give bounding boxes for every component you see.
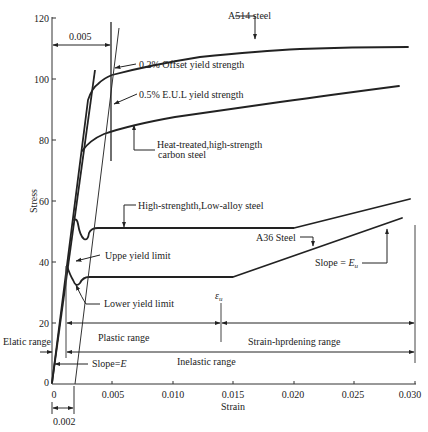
label-slope-eu: Slope = Eu (315, 257, 359, 270)
y-tick: 100 (34, 74, 49, 85)
label-plastic-range: Plastic range (98, 332, 150, 343)
x-tick: 0.030 (399, 389, 422, 400)
x-tick: 0.010 (162, 389, 185, 400)
offset-line-0002 (75, 28, 119, 384)
x-tick: 0.025 (342, 389, 365, 400)
x-tick: 0 (52, 389, 57, 400)
label-inelastic-range: Inelastic range (177, 356, 236, 367)
leader-lower-yield (76, 285, 100, 304)
label-lower-yield-limit: Lower yield limit (104, 298, 174, 309)
y-tick: 20 (39, 318, 49, 329)
y-tick: 80 (39, 135, 49, 146)
dimension-0005-label: 0.005 (69, 31, 92, 42)
x-tick: 0.015 (222, 389, 245, 400)
leader-0.2-offset (115, 64, 136, 68)
label-0.2-offset-yield-strength: 0.2% Offset yield strength (139, 59, 244, 70)
label-upper-yield-limit: Uppe yield limit (105, 250, 171, 261)
leader-upper-yield (76, 255, 100, 261)
label-hsla-steel: High-strenghth,Low-alloy steel (138, 200, 264, 211)
x-axis-title: Strain (221, 401, 245, 412)
label-strain-hardening-range: Strain-hprdening range (248, 336, 341, 347)
x-tick-labels: 0 0.005 0.010 0.015 0.020 0.025 0.030 (52, 389, 422, 400)
dimension-0002-label: 0.002 (53, 416, 76, 427)
leader-slope-eu (362, 229, 387, 263)
label-slope-e: Slope=E (92, 358, 127, 369)
y-tick: 120 (34, 13, 49, 24)
label-eps-u: εu (215, 290, 223, 303)
y-tick: 60 (39, 196, 49, 207)
leader-a36 (300, 237, 313, 246)
label-elastic-range: Elatic range (3, 336, 52, 347)
y-axis-title: Stress (28, 189, 39, 213)
label-0.5-eul-yield-strength: 0.5% E.U.L yield strength (139, 89, 244, 100)
leader-0.5-eul (114, 94, 137, 104)
x-tick: 0.005 (102, 389, 125, 400)
y-tick: 40 (39, 257, 49, 268)
y-tick: 0 (44, 377, 49, 388)
label-heat-treated-2: carbon steel (158, 149, 206, 160)
leader-heat-treated (134, 125, 155, 150)
stress-strain-chart: 0 20 40 60 80 100 120 0 0.005 0.010 0.01… (0, 0, 428, 432)
label-a36-steel: A36 Steel (256, 232, 296, 243)
leader-hsla (124, 205, 136, 227)
elastic-slope-line (52, 70, 95, 383)
x-tick: 0.020 (282, 389, 305, 400)
